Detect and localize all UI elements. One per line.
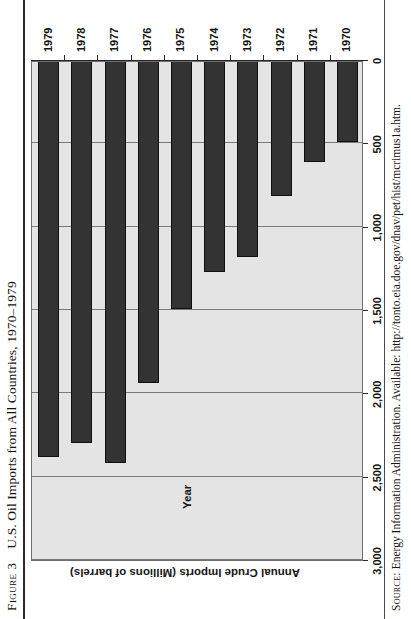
figure-title: Figure 3 U.S. Oil Imports from All Count… xyxy=(4,11,20,611)
value-tick-label: 2,000 xyxy=(371,381,383,409)
category-tick-mark xyxy=(131,55,132,60)
zero-axis-line xyxy=(31,60,363,61)
bar xyxy=(105,61,126,463)
value-tick-label: 3,000 xyxy=(371,547,383,575)
category-tick-label: 1973 xyxy=(241,28,253,52)
bar xyxy=(171,61,192,309)
value-tick-mark xyxy=(363,60,368,61)
category-axis-title: Year xyxy=(181,485,193,509)
category-tick-label: 1972 xyxy=(274,28,286,52)
category-tick-label: 1970 xyxy=(340,28,352,52)
figure-container: Figure 3 U.S. Oil Imports from All Count… xyxy=(0,0,411,619)
source-label: Source: xyxy=(390,572,402,611)
value-tick-mark xyxy=(363,310,368,311)
source-note: Source: Energy Information Administratio… xyxy=(390,5,402,611)
category-tick-label: 1977 xyxy=(108,28,120,52)
category-tick-label: 1976 xyxy=(141,28,153,52)
bar xyxy=(204,61,225,272)
chart-block: Annual Crude Imports (Millions of barrel… xyxy=(29,0,374,619)
category-tick-mark xyxy=(197,55,198,60)
bar xyxy=(304,61,325,162)
bar xyxy=(237,61,258,258)
value-tick-mark xyxy=(363,227,368,228)
title-divider xyxy=(23,0,25,619)
value-tick-mark xyxy=(363,477,368,478)
plot-outer: 05001,0001,5002,0002,5003,000 1970197119… xyxy=(31,61,363,561)
value-tick-label: 2,500 xyxy=(371,464,383,492)
value-tick-mark xyxy=(363,393,368,394)
category-tick-mark xyxy=(97,55,98,60)
category-tick-mark xyxy=(297,55,298,60)
bar xyxy=(38,61,59,458)
category-tick-mark xyxy=(230,55,231,60)
value-tick-mark xyxy=(363,560,368,561)
figure-title-text: U.S. Oil Imports from All Countries, 197… xyxy=(4,281,19,548)
value-tick-label: 1,500 xyxy=(371,297,383,325)
figure-page: Figure 3 U.S. Oil Imports from All Count… xyxy=(0,0,411,619)
plot-area xyxy=(31,61,363,561)
category-tick-mark xyxy=(263,55,264,60)
bar xyxy=(138,61,159,383)
value-tick-label: 500 xyxy=(371,135,383,153)
bar xyxy=(71,61,92,443)
value-tick-label: 0 xyxy=(371,58,383,64)
figure-number: Figure 3 xyxy=(4,563,19,611)
category-tick-label: 1974 xyxy=(208,28,220,52)
bar xyxy=(337,61,358,142)
value-tick-label: 1,000 xyxy=(371,214,383,242)
bar xyxy=(271,61,292,196)
value-tick-mark xyxy=(363,143,368,144)
category-tick-label: 1975 xyxy=(174,28,186,52)
category-tick-label: 1979 xyxy=(42,28,54,52)
category-tick-mark xyxy=(330,55,331,60)
category-tick-mark xyxy=(164,55,165,60)
source-divider xyxy=(384,0,385,619)
category-tick-label: 1978 xyxy=(75,28,87,52)
value-axis-title: Annual Crude Imports (Millions of barrel… xyxy=(45,567,325,579)
category-axis: 1970197119721973197419751976197719781979 xyxy=(31,4,363,60)
source-text: Energy Information Administration. Avail… xyxy=(390,104,402,569)
category-tick-mark xyxy=(64,55,65,60)
category-tick-label: 1971 xyxy=(307,28,319,52)
bar-series xyxy=(32,62,362,560)
